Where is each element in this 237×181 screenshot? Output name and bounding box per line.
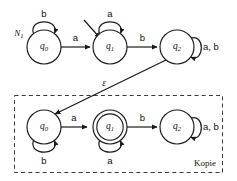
top-q2-loop-label: a, b	[203, 41, 219, 52]
top-state-q0: q0	[27, 30, 61, 64]
automaton-figure: N1 b a a b a, b q0 q1	[0, 0, 237, 181]
bottom-q0-loop-label: b	[41, 155, 46, 166]
machine-name-label: N1	[13, 28, 23, 39]
bottom-state-q0: q0	[27, 110, 61, 144]
top-q1-loop-label: a	[107, 8, 113, 19]
top-q0-loop-label: b	[41, 8, 46, 19]
bottom-q0-to-q1-label: a	[71, 112, 77, 123]
epsilon-transition-edge	[55, 60, 166, 114]
epsilon-label: ε	[102, 78, 106, 88]
diagram-canvas: N1 b a a b a, b q0 q1	[0, 0, 237, 181]
bottom-state-q2: q2	[160, 110, 194, 144]
top-q1-to-q2-label: b	[140, 32, 145, 43]
bottom-q1-loop-label: a	[107, 155, 113, 166]
kopie-caption: Kopie	[194, 158, 216, 168]
top-state-q2: q2	[160, 30, 194, 64]
bottom-state-q1-accepting: q1	[93, 110, 127, 144]
bottom-q1-to-q2-label: b	[140, 112, 145, 123]
bottom-q2-loop-label: a, b	[203, 121, 219, 132]
top-q0-to-q1-label: a	[73, 32, 79, 43]
top-state-q1: q1	[93, 30, 127, 64]
